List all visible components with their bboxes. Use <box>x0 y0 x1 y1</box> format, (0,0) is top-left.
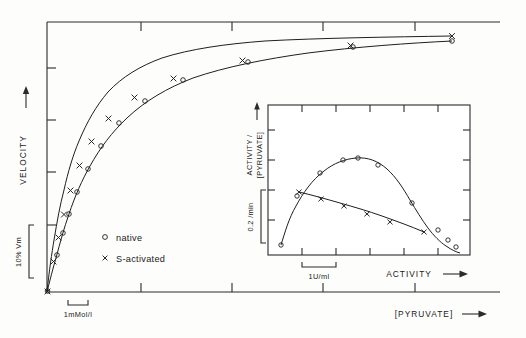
inset-frame <box>268 105 470 255</box>
inset-x-axis-arrow-icon <box>443 271 468 278</box>
main-x-axis-arrow-icon <box>462 311 487 318</box>
legend-marker-cross-icon <box>103 256 108 261</box>
inset-x-scale-bar-label: 1U/ml <box>308 272 329 281</box>
main-y-axis-label: VELOCITY <box>18 135 28 184</box>
main-legend: native S-activated <box>103 233 166 264</box>
legend-label-native: native <box>116 233 142 243</box>
main-x-axis-label: [PYRUVATE] <box>395 309 454 319</box>
inset-y-scale-bar-label: 0.2 /min <box>246 202 255 231</box>
main-y-axis-arrow-icon <box>23 86 29 108</box>
inset-x-scale-bar <box>302 262 336 267</box>
inset-y-axis-label-line1: ACTIVITY / <box>245 134 254 175</box>
inset-y-axis-label-line2: [PYRUVATE] <box>255 132 264 178</box>
figure-container: VELOCITY 10% Vm 1mMol/l [PYRUVATE] n <box>0 0 526 338</box>
inset-y-scale-bar <box>261 190 266 243</box>
legend-label-s-activated: S-activated <box>116 254 165 264</box>
main-y-scale-bar-label: 10% Vm <box>14 237 23 267</box>
inset-y-axis-arrow-icon <box>254 102 260 120</box>
inset-x-axis-label: ACTIVITY <box>386 269 432 279</box>
figure-svg: VELOCITY 10% Vm 1mMol/l [PYRUVATE] n <box>0 0 526 338</box>
inset-plot <box>268 105 470 255</box>
main-y-scale-bar <box>29 225 34 278</box>
main-x-scale-bar-label: 1mMol/l <box>64 310 92 319</box>
legend-marker-circle-icon <box>103 235 108 240</box>
main-x-scale-bar <box>68 300 88 305</box>
